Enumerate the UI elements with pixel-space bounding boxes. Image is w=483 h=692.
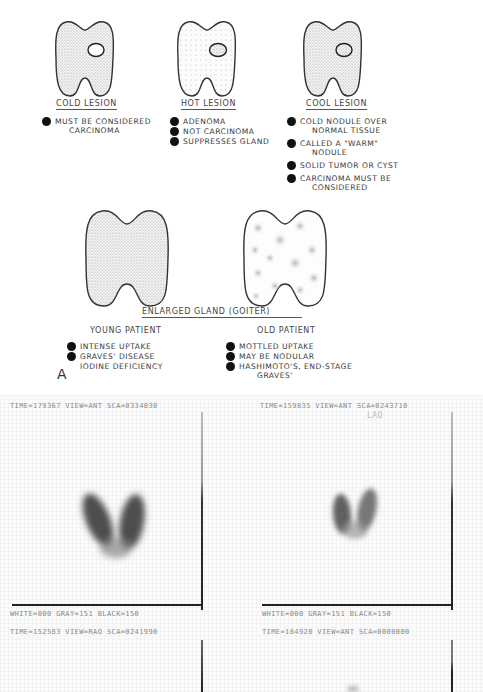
bullet-dot-icon xyxy=(67,342,76,351)
scan-2-view-overlay: LAO xyxy=(367,411,383,420)
young-patient-label: YOUNG PATIENT xyxy=(90,326,161,335)
scan-2-header: TIME=159835 VIEW=ANT SCA=0243710 xyxy=(260,402,408,410)
bullet-item: COLD NODULE OVERNORMAL TISSUE xyxy=(287,117,398,135)
bullet-dot-icon xyxy=(170,137,179,146)
bullet-dot-icon xyxy=(226,362,235,371)
bullet-item: INTENSE UPTAKE xyxy=(67,342,163,351)
scan-4-uptake-hint xyxy=(348,686,358,692)
bullet-dot-icon xyxy=(226,342,235,351)
old-goiter-gland-icon xyxy=(240,208,330,308)
scan-2-footer: WHITE=000 GRAY=151 BLACK=150 xyxy=(262,610,391,618)
bullet-item: CALLED A "WARM"NODULE xyxy=(287,139,398,157)
scan-1-thyroid-uptake xyxy=(70,480,160,580)
bullet-dot-icon xyxy=(42,117,51,126)
young-goiter-gland-icon xyxy=(82,208,172,308)
bullet-dot-icon xyxy=(287,174,296,183)
bullet-item: MUST BE CONSIDEREDCARCINOMA xyxy=(42,117,151,135)
bullet-dot-icon xyxy=(170,127,179,136)
hot-lesion-gland-icon xyxy=(174,18,239,98)
cold-lesion-title: COLD LESION xyxy=(56,99,117,110)
scan-4-header: TIME=184920 VIEW=ANT SCA=0000000 xyxy=(262,628,410,636)
scan-2-thyroid-uptake xyxy=(320,480,390,560)
bullet-dot-icon xyxy=(170,117,179,126)
scan-2-baseline xyxy=(262,604,452,606)
goiter-title: ENLARGED GLAND (GOITER) xyxy=(142,307,302,318)
scan-1-footer: WHITE=000 GRAY=151 BLACK=150 xyxy=(10,610,139,618)
cold-lesion-gland-icon xyxy=(52,18,117,98)
old-patient-bullets: MOTTLED UPTAKE MAY BE NODULAR HASHIMOTO'… xyxy=(226,342,352,381)
scan-1-frame-line xyxy=(201,412,203,610)
bullet-item: IODINE DEFICIENCY xyxy=(67,362,163,371)
bullet-dot-icon xyxy=(287,161,296,170)
scan-2-frame-line xyxy=(451,412,453,610)
bullet-item: GRAVES' DISEASE xyxy=(67,352,163,361)
cool-lesion-gland-icon xyxy=(300,18,365,98)
bullet-dot-icon xyxy=(287,117,296,126)
bullet-dot-icon xyxy=(287,139,296,148)
bullet-item: NOT CARCINOMA xyxy=(170,127,269,136)
bullet-item: MOTTLED UPTAKE xyxy=(226,342,352,351)
bullet-dot-icon xyxy=(67,352,76,361)
bullet-item: SOLID TUMOR OR CYST xyxy=(287,161,398,170)
scan-1-header: TIME=179367 VIEW=ANT SCA=0334030 xyxy=(10,402,158,410)
old-patient-label: OLD PATIENT xyxy=(257,326,315,335)
bullet-item: ADENOMA xyxy=(170,117,269,126)
bullet-item: CARCINOMA MUST BECONSIDERED xyxy=(287,174,398,192)
bullet-item: HASHIMOTO'S, END-STAGEGRAVES' xyxy=(226,362,352,380)
scan-4-frame-line xyxy=(451,640,453,692)
cold-lesion-bullets: MUST BE CONSIDEREDCARCINOMA xyxy=(42,117,151,136)
cool-lesion-title: COOL LESION xyxy=(306,99,367,110)
scan-1-baseline xyxy=(12,604,202,606)
young-patient-bullets: INTENSE UPTAKE GRAVES' DISEASE IODINE DE… xyxy=(67,342,163,372)
scan-3-frame-line xyxy=(201,640,203,692)
cool-lesion-bullets: COLD NODULE OVERNORMAL TISSUE CALLED A "… xyxy=(287,117,398,193)
panel-letter: A xyxy=(57,366,67,382)
bullet-dot-icon xyxy=(226,352,235,361)
scan-3-header: TIME=152583 VIEW=RAO SCA=0241990 xyxy=(10,628,158,636)
hot-lesion-bullets: ADENOMA NOT CARCINOMA SUPPRESSES GLAND xyxy=(170,117,269,147)
bullet-item: MAY BE NODULAR xyxy=(226,352,352,361)
hot-lesion-title: HOT LESION xyxy=(181,99,236,110)
bullet-item: SUPPRESSES GLAND xyxy=(170,137,269,146)
